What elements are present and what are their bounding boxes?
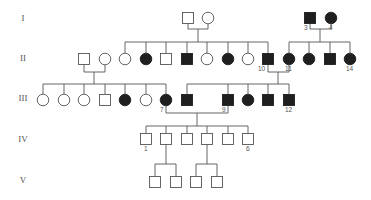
affected-female-circle-icon <box>160 94 172 106</box>
affected-female-circle-icon <box>242 94 254 106</box>
individual-id-label: 14 <box>346 65 353 72</box>
unaffected-male-square-icon <box>183 13 194 24</box>
unaffected-male-square-icon <box>161 54 172 65</box>
generation-label-iv: IV <box>14 134 32 144</box>
pedigree-svg <box>0 0 371 200</box>
unaffected-male-square-icon <box>223 134 234 145</box>
individual-id-label: 10 <box>258 65 265 72</box>
unaffected-male-square-icon <box>161 134 172 145</box>
generation-label-i: I <box>14 13 32 23</box>
unaffected-male-square-icon <box>243 134 254 145</box>
individual-id-label: 6 <box>246 145 250 152</box>
unaffected-male-square-icon <box>202 134 213 145</box>
unaffected-female-circle-icon <box>99 53 111 65</box>
unaffected-male-square-icon <box>191 177 202 188</box>
unaffected-male-square-icon <box>182 134 193 145</box>
affected-male-square-icon <box>284 95 295 106</box>
individual-id-label: 4 <box>329 24 333 31</box>
unaffected-male-square-icon <box>150 177 161 188</box>
individual-id-label: 3 <box>304 24 308 31</box>
unaffected-female-circle-icon <box>140 94 152 106</box>
unaffected-female-circle-icon <box>58 94 70 106</box>
affected-female-circle-icon <box>303 53 315 65</box>
unaffected-female-circle-icon <box>37 94 49 106</box>
unaffected-female-circle-icon <box>78 94 90 106</box>
unaffected-female-circle-icon <box>201 53 213 65</box>
affected-female-circle-icon <box>119 94 131 106</box>
affected-female-circle-icon <box>140 53 152 65</box>
affected-female-circle-icon <box>344 53 356 65</box>
individual-id-label: 11 <box>285 65 292 72</box>
affected-male-square-icon <box>182 95 193 106</box>
unaffected-female-circle-icon <box>242 53 254 65</box>
unaffected-male-square-icon <box>171 177 182 188</box>
individual-id-label: 12 <box>285 106 292 113</box>
affected-female-circle-icon <box>325 12 337 24</box>
unaffected-male-square-icon <box>141 134 152 145</box>
unaffected-male-square-icon <box>212 177 223 188</box>
affected-male-square-icon <box>305 13 316 24</box>
affected-female-circle-icon <box>283 53 295 65</box>
unaffected-female-circle-icon <box>202 12 214 24</box>
affected-male-square-icon <box>325 54 336 65</box>
affected-male-square-icon <box>263 95 274 106</box>
affected-male-square-icon <box>263 54 274 65</box>
individuals <box>37 12 356 187</box>
unaffected-male-square-icon <box>100 95 111 106</box>
affected-male-square-icon <box>223 95 234 106</box>
generation-label-ii: II <box>14 53 32 63</box>
affected-male-square-icon <box>182 54 193 65</box>
individual-id-label: 9 <box>222 106 226 113</box>
unaffected-female-circle-icon <box>119 53 131 65</box>
generation-label-iii: III <box>14 93 32 103</box>
generation-label-v: V <box>14 175 32 185</box>
unaffected-male-square-icon <box>79 54 90 65</box>
individual-id-label: 1 <box>144 145 148 152</box>
affected-female-circle-icon <box>222 53 234 65</box>
individual-id-label: 7 <box>160 106 164 113</box>
